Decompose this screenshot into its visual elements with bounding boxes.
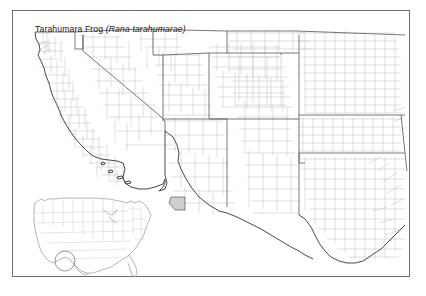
range-county-shading bbox=[169, 197, 185, 210]
inset-us-outline bbox=[34, 198, 151, 277]
us-locator-inset bbox=[34, 198, 151, 277]
species-range-map-figure: Tarahumara Frog (Rana tarahumarae) bbox=[0, 0, 426, 296]
map-title-common-name: Tarahumara Frog bbox=[35, 24, 106, 34]
range-county-santa-cruz-az bbox=[169, 197, 185, 210]
inset-range-circle-marker bbox=[55, 251, 75, 271]
map-canvas bbox=[13, 11, 411, 278]
inset-state-lines bbox=[35, 199, 147, 259]
county-boundaries bbox=[35, 29, 407, 261]
map-title-scientific-name: (Rana tarahumarae) bbox=[106, 24, 186, 34]
map-title: Tarahumara Frog (Rana tarahumarae) bbox=[35, 24, 186, 34]
map-frame: Tarahumara Frog (Rana tarahumarae) bbox=[12, 10, 410, 277]
coastline-and-national-border bbox=[35, 32, 405, 263]
